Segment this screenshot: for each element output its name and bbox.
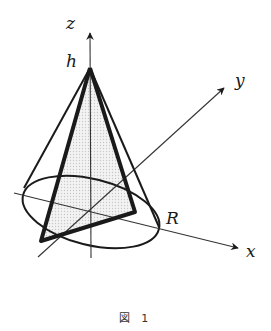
x-axis-label: x [246, 241, 256, 261]
z-axis-label: z [65, 13, 76, 33]
figure-caption: 図 1 [0, 309, 271, 325]
y-axis-label: y [234, 70, 245, 90]
cone-diagram: z h y x R [0, 0, 271, 331]
R-radius-label: R [165, 208, 179, 228]
h-height-label: h [66, 51, 77, 71]
